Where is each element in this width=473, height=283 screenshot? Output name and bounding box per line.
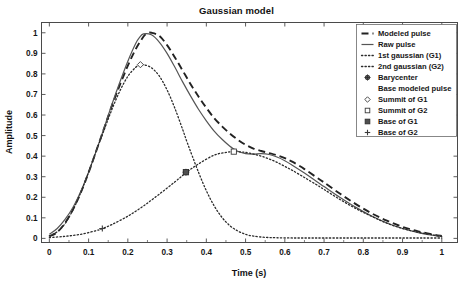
x-tick-label: 0.1 bbox=[83, 248, 95, 257]
y-tick-label: 0.1 bbox=[26, 214, 38, 223]
y-tick-label: 0 bbox=[33, 234, 38, 243]
x-tick-label: 0.5 bbox=[240, 248, 252, 257]
y-tick-label: 0.6 bbox=[26, 111, 38, 120]
x-tick-label: 0.9 bbox=[397, 248, 409, 257]
y-tick-label: 1 bbox=[33, 29, 38, 38]
legend-sample-square bbox=[365, 108, 370, 113]
y-tick-label: 0.7 bbox=[26, 90, 38, 99]
legend-sample-square-filled bbox=[365, 119, 370, 124]
series-2nd-gaussian-g2 bbox=[49, 152, 441, 238]
y-tick-label: 0.8 bbox=[26, 70, 38, 79]
marker-base-of-g1 bbox=[183, 169, 188, 174]
legend-label: 1st gaussian (G1) bbox=[378, 51, 442, 60]
chart-figure: Gaussian model 00.10.20.30.40.50.60.70.8… bbox=[0, 0, 473, 283]
y-tick-label: 0.9 bbox=[26, 49, 38, 58]
x-tick-label: 0.2 bbox=[122, 248, 134, 257]
y-axis-tick-labels: 00.10.20.30.40.50.60.70.80.91 bbox=[26, 29, 38, 244]
x-tick-label: 0.7 bbox=[318, 248, 330, 257]
x-tick-label: 0.4 bbox=[201, 248, 213, 257]
marker-summit-of-g1 bbox=[137, 62, 143, 68]
y-axis-title: Amplitude bbox=[4, 110, 14, 154]
marker-base-of-g2 bbox=[99, 225, 105, 231]
y-tick-label: 0.2 bbox=[26, 193, 38, 202]
legend-item-base-modeled-pulse[interactable]: Base modeled pulse bbox=[378, 84, 451, 93]
legend-label: Summit of G2 bbox=[378, 106, 427, 115]
x-tick-label: 0.8 bbox=[358, 248, 370, 257]
x-tick-label: 0.3 bbox=[161, 248, 173, 257]
x-axis-title: Time (s) bbox=[232, 268, 266, 278]
legend-label: Raw pulse bbox=[378, 40, 416, 49]
legend-label: Modeled pulse bbox=[378, 29, 431, 38]
x-tick-label: 1 bbox=[440, 248, 445, 257]
y-tick-label: 0.4 bbox=[26, 152, 38, 161]
marker-summit-of-g2 bbox=[231, 149, 236, 154]
y-tick-label: 0.5 bbox=[26, 132, 38, 141]
gaussian-model-plot: 00.10.20.30.40.50.60.70.80.91 00.10.20.3… bbox=[0, 0, 473, 283]
x-axis-tick-labels: 00.10.20.30.40.50.60.70.80.91 bbox=[47, 248, 444, 257]
legend-label: Barycenter bbox=[378, 73, 418, 82]
legend-label: Summit of G1 bbox=[378, 95, 428, 104]
legend-label: 2nd gaussian (G2) bbox=[378, 62, 444, 71]
legend-label: Base modeled pulse bbox=[378, 84, 451, 93]
y-tick-label: 0.3 bbox=[26, 173, 38, 182]
chart-legend: Modeled pulseRaw pulse1st gaussian (G1)2… bbox=[357, 25, 457, 138]
x-tick-label: 0 bbox=[47, 248, 52, 257]
x-tick-label: 0.6 bbox=[279, 248, 291, 257]
legend-label: Base of G1 bbox=[378, 117, 418, 126]
legend-label: Base of G2 bbox=[378, 128, 418, 137]
